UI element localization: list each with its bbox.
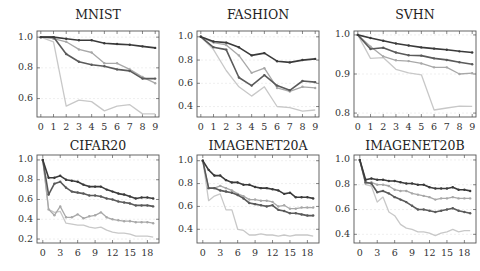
- data-point-marker: [141, 45, 143, 47]
- x-tick-label: 8: [456, 121, 462, 132]
- data-point-marker: [135, 197, 137, 199]
- plot-frame: [37, 31, 159, 117]
- x-tick-label: 15: [284, 247, 296, 258]
- data-point-marker: [225, 187, 227, 189]
- data-point-marker: [117, 192, 119, 194]
- data-point-marker: [382, 40, 384, 42]
- data-point-marker: [129, 202, 131, 204]
- data-point-marker: [312, 197, 314, 199]
- data-point-marker: [129, 195, 131, 197]
- data-point-marker: [71, 180, 73, 182]
- data-point-marker: [289, 208, 291, 210]
- series-line: [358, 35, 472, 74]
- data-point-marker: [423, 184, 425, 186]
- x-tick-label: 0: [40, 247, 46, 258]
- data-point-marker: [407, 54, 409, 56]
- data-point-marker: [152, 222, 154, 224]
- x-tick-label: 9: [469, 121, 475, 132]
- y-tick-label: 0.6: [178, 200, 193, 211]
- line-series-3: [42, 159, 155, 225]
- data-point-marker: [289, 61, 291, 63]
- data-point-marker: [94, 194, 96, 196]
- data-point-marker: [65, 179, 67, 181]
- data-point-marker: [117, 219, 119, 221]
- data-point-marker: [140, 196, 142, 198]
- data-point-marker: [458, 73, 460, 75]
- data-point-marker: [370, 182, 372, 184]
- y-tick-label: 0.2: [18, 233, 33, 244]
- data-point-marker: [369, 37, 371, 39]
- data-point-marker: [238, 46, 240, 48]
- data-point-marker: [300, 196, 302, 198]
- line-series-3: [357, 34, 474, 75]
- data-point-marker: [271, 204, 273, 206]
- x-tick-label: 4: [406, 121, 412, 132]
- data-point-marker: [434, 187, 436, 189]
- y-tick-label: 0.8: [335, 107, 350, 118]
- data-point-marker: [446, 187, 448, 189]
- data-point-marker: [471, 51, 473, 53]
- y-tick-label: 1.0: [335, 153, 350, 164]
- x-tick-label: 9: [152, 121, 158, 132]
- data-point-marker: [117, 200, 119, 202]
- series-line: [203, 161, 313, 199]
- data-point-marker: [306, 196, 308, 198]
- x-tick-label: 6: [274, 121, 280, 132]
- data-point-marker: [260, 187, 262, 189]
- data-point-marker: [248, 198, 250, 200]
- data-point-marker: [428, 210, 430, 212]
- data-point-marker: [263, 52, 265, 54]
- data-point-marker: [213, 187, 215, 189]
- y-tick-label: 1.0: [178, 154, 193, 165]
- data-point-marker: [129, 44, 131, 46]
- x-tick-label: 7: [127, 121, 133, 132]
- data-point-marker: [123, 193, 125, 195]
- data-point-marker: [106, 216, 108, 218]
- data-point-marker: [212, 46, 214, 48]
- x-tick-label: 3: [217, 247, 223, 258]
- data-point-marker: [254, 203, 256, 205]
- y-tick-label: 0.8: [18, 61, 33, 72]
- data-point-marker: [314, 58, 316, 60]
- data-point-marker: [82, 217, 84, 219]
- data-point-marker: [277, 209, 279, 211]
- y-tick-label: 0.6: [178, 77, 193, 88]
- data-point-marker: [289, 212, 291, 214]
- x-tick-label: 15: [124, 247, 136, 258]
- data-point-marker: [457, 189, 459, 191]
- x-tick-label: 9: [252, 247, 258, 258]
- data-point-marker: [469, 190, 471, 192]
- data-point-marker: [207, 169, 209, 171]
- data-point-marker: [423, 208, 425, 210]
- x-tick-label: 8: [299, 121, 305, 132]
- x-tick-label: 3: [236, 121, 242, 132]
- x-tick-label: 18: [301, 247, 313, 258]
- data-point-marker: [212, 40, 214, 42]
- x-tick-label: 7: [287, 121, 293, 132]
- data-point-marker: [314, 81, 316, 83]
- chart-title: IMAGENET20B: [365, 138, 464, 153]
- data-point-marker: [266, 205, 268, 207]
- data-point-marker: [420, 54, 422, 56]
- data-point-marker: [395, 42, 397, 44]
- data-point-marker: [471, 63, 473, 65]
- data-point-marker: [463, 189, 465, 191]
- x-tick-label: 5: [418, 121, 424, 132]
- data-point-marker: [116, 62, 118, 64]
- data-point-marker: [263, 74, 265, 76]
- data-point-marker: [88, 215, 90, 217]
- data-point-marker: [106, 197, 108, 199]
- data-point-marker: [140, 204, 142, 206]
- line-series-2: [359, 159, 472, 215]
- data-point-marker: [283, 193, 285, 195]
- data-point-marker: [65, 41, 67, 43]
- data-point-marker: [140, 221, 142, 223]
- data-point-marker: [82, 183, 84, 185]
- data-point-marker: [283, 204, 285, 206]
- x-tick-label: 5: [261, 121, 267, 132]
- line-series-1: [202, 160, 315, 200]
- data-point-marker: [423, 195, 425, 197]
- data-point-marker: [295, 196, 297, 198]
- data-point-marker: [123, 220, 125, 222]
- x-tick-label: 9: [409, 247, 415, 258]
